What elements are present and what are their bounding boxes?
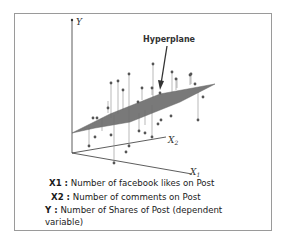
x1-axis-label: X1: [189, 167, 200, 178]
legend-text: Number of Shares of Post (dependent: [60, 205, 222, 215]
hyperplane-label: Hyperplane: [143, 35, 196, 44]
legend-text: Number of facebook likes on Post: [71, 178, 215, 188]
arrow-icon: [158, 46, 167, 90]
legend-text: variable): [45, 217, 83, 227]
regression-plot: Y X2 X1: [0, 0, 286, 180]
legend-y: Y : Number of Shares of Post (dependent: [45, 205, 222, 216]
legend-text: Number of comments on Post: [73, 192, 201, 202]
y-axis-label: Y: [76, 17, 83, 27]
hyperplane-surface: [72, 84, 215, 133]
x2-axis: [72, 137, 166, 153]
legend-key: X1 :: [49, 178, 68, 188]
legend-key: X2 :: [51, 192, 70, 202]
legend-key: Y :: [45, 205, 58, 215]
x1-axis: [72, 153, 192, 174]
x2-axis-label: X2: [167, 135, 178, 146]
legend-x2: X2 : Number of comments on Post: [51, 192, 201, 203]
legend-y-continuation: variable): [45, 217, 83, 228]
legend-x1: X1 : Number of facebook likes on Post: [49, 178, 214, 189]
